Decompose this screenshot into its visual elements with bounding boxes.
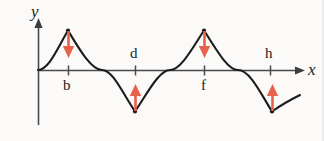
velocity-arrow-down-at-f-head — [199, 46, 210, 58]
velocity-arrow-down-at-b-head — [63, 46, 74, 58]
point-label-h: h — [265, 46, 273, 61]
velocity-arrow-up-at-h-head — [267, 84, 278, 96]
x-axis-label: x — [308, 61, 316, 78]
point-label-d: d — [130, 46, 138, 61]
wave-diagram-canvas — [0, 0, 324, 141]
point-label-f: f — [201, 78, 206, 93]
point-label-b: b — [63, 78, 71, 93]
x-axis-arrowhead — [295, 67, 305, 75]
wave-diagram-figure: y x b d f h — [0, 0, 324, 141]
velocity-arrow-up-at-d-head — [130, 84, 141, 96]
y-axis-label: y — [31, 3, 39, 20]
